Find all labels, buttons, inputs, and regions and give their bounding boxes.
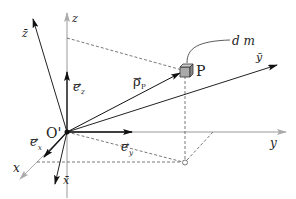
dm-label: d m xyxy=(232,34,255,48)
z-axis-label: z xyxy=(71,12,78,25)
z-bar-axis xyxy=(33,19,67,132)
dashed-foot-to-y xyxy=(187,132,213,160)
ez-label: → e z xyxy=(73,79,85,96)
svg-text:e: e xyxy=(30,135,37,149)
y-bar-axis xyxy=(67,65,277,132)
origin-label: O' xyxy=(46,125,61,141)
svg-text:x: x xyxy=(38,144,42,152)
y-axis-label: y xyxy=(269,136,277,150)
unit-vectors xyxy=(44,72,132,157)
point-p-label: P xyxy=(196,63,205,79)
x-bar-axis-label: x̄ xyxy=(63,174,70,187)
svg-text:e: e xyxy=(121,140,128,154)
z-bar-axis-label: z̄ xyxy=(21,27,28,40)
svg-text:P: P xyxy=(141,83,146,91)
projection-foot-point xyxy=(183,160,188,165)
mass-element-cube xyxy=(180,64,193,77)
ey-label: → e y xyxy=(121,139,134,157)
dm-leader-line xyxy=(187,40,230,63)
x-axis-label: x xyxy=(13,161,20,175)
y-bar-axis-label: ȳ xyxy=(255,51,263,64)
rho-p-label: → ρ P xyxy=(133,73,146,91)
coordinate-diagram: O' P d m z y x z̄ ȳ x̄ → e z → e y → e x… xyxy=(0,0,296,199)
svg-text:ρ: ρ xyxy=(133,74,141,89)
svg-text:e: e xyxy=(73,80,80,94)
svg-text:z: z xyxy=(80,88,85,96)
ex-label: → e x xyxy=(30,134,42,152)
rho-p-vector xyxy=(67,73,180,132)
svg-text:y: y xyxy=(128,149,134,157)
origin-point xyxy=(65,130,70,135)
dashed-z-to-p xyxy=(67,38,182,70)
